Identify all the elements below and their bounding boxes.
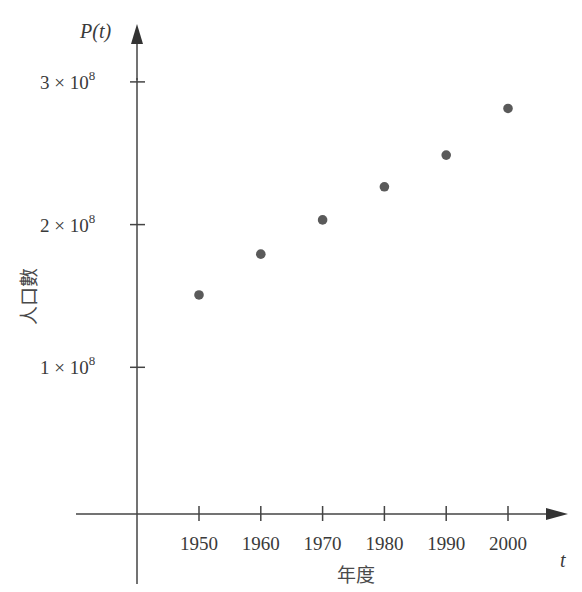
y-axis-arrow-icon: [131, 24, 143, 44]
data-point: [503, 104, 513, 114]
x-ticks: 195019601970198019902000: [180, 506, 527, 554]
data-point: [318, 215, 328, 225]
x-tick-label: 1980: [365, 533, 403, 554]
data-point: [441, 150, 451, 160]
data-point: [256, 249, 266, 259]
x-axis-arrow-icon: [546, 508, 568, 520]
x-axis-title: 年度: [337, 564, 375, 586]
population-scatter-chart: P(t) t 人口數 年度 1 × 1082 × 1083 × 108 1950…: [0, 0, 582, 592]
x-axis-variable-label: t: [560, 549, 566, 571]
axes: [76, 24, 568, 584]
y-axis-title: 人口數: [18, 268, 40, 325]
x-tick-label: 1970: [304, 533, 342, 554]
y-ticks: 1 × 1082 × 1083 × 108: [40, 68, 145, 378]
x-tick-label: 1950: [180, 533, 218, 554]
data-point: [380, 182, 390, 192]
y-tick-label: 1 × 108: [40, 353, 95, 378]
x-tick-label: 1990: [427, 533, 465, 554]
data-points: [194, 104, 513, 300]
y-tick-label: 2 × 108: [40, 211, 95, 236]
x-tick-label: 1960: [242, 533, 280, 554]
data-point: [194, 290, 204, 300]
x-tick-label: 2000: [489, 533, 527, 554]
y-axis-variable-label: P(t): [79, 20, 111, 43]
y-tick-label: 3 × 108: [40, 68, 95, 93]
